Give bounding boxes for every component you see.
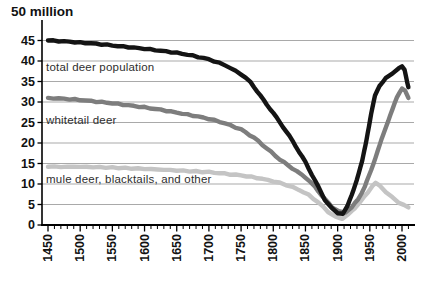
x-tick-label: 1600 xyxy=(138,234,152,262)
x-tick-label: 1800 xyxy=(266,234,280,262)
x-tick-label: 2000 xyxy=(395,234,409,262)
y-tick-label: 25 xyxy=(21,116,35,130)
y-tick-label: 30 xyxy=(21,95,35,109)
series-label-whitetail-deer: whitetail deer xyxy=(46,114,117,126)
x-tick-label: 1450 xyxy=(41,234,55,262)
series-label-mule-deer-blacktails-and-other: mule deer, blacktails, and other xyxy=(46,173,212,185)
x-tick-label: 1700 xyxy=(202,234,216,262)
y-tick-label: 15 xyxy=(21,157,35,171)
y-tick-label: 40 xyxy=(21,54,35,68)
series-label-total-deer-population: total deer population xyxy=(46,61,154,73)
x-tick-label: 1650 xyxy=(170,234,184,262)
y-tick-label: 35 xyxy=(21,75,35,89)
y-tick-label: 5 xyxy=(28,198,35,212)
y-tick-label: 45 xyxy=(21,34,35,48)
y-tick-label: 10 xyxy=(21,177,35,191)
x-tick-label: 1850 xyxy=(298,234,312,262)
deer-population-chart: 4540353025201510501450150015501600165017… xyxy=(0,0,421,282)
chart-canvas: 4540353025201510501450150015501600165017… xyxy=(0,0,421,282)
x-tick-label: 1900 xyxy=(331,234,345,262)
x-tick-label: 1500 xyxy=(73,234,87,262)
y-tick-label: 0 xyxy=(28,218,35,232)
x-tick-label: 1750 xyxy=(234,234,248,262)
y-axis-unit-label: 50 million xyxy=(11,4,73,19)
x-tick-label: 1950 xyxy=(363,234,377,262)
y-tick-label: 20 xyxy=(21,136,35,150)
x-tick-label: 1550 xyxy=(105,234,119,262)
